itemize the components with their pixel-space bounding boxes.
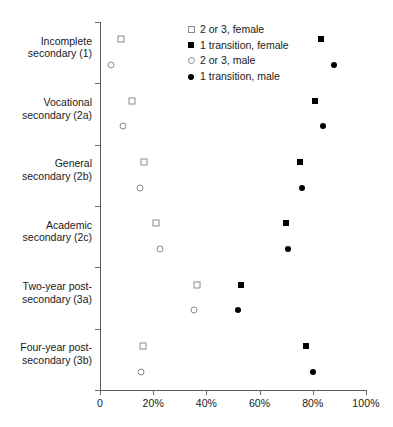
square-open-icon [188,26,195,33]
legend-marker-icon [186,57,196,64]
legend-item: 2 or 3, male [186,53,289,69]
legend-item: 1 transition, male [186,69,289,85]
y-axis-tick [95,83,100,84]
data-point [283,220,289,226]
x-axis-tick-label: 0 [97,397,103,409]
x-axis-tick [153,390,154,395]
legend-item-label: 2 or 3, male [200,53,255,69]
data-point [285,246,291,252]
y-axis-category-label: Academic secondary (2c) [0,218,92,243]
data-point [297,159,303,165]
x-axis-tick-label: 100% [352,397,379,409]
y-axis-category-label: Vocational secondary (2a) [0,96,92,121]
square-filled-icon [188,42,194,48]
data-point [310,369,316,375]
y-axis-tick [95,329,100,330]
data-point [312,98,318,104]
y-axis-tick [95,206,100,207]
data-point [318,36,324,42]
x-axis-tick-label: 20% [143,397,164,409]
data-point [156,245,163,252]
legend-marker-icon [186,42,196,48]
x-axis-tick-label: 40% [196,397,217,409]
legend-marker-icon [186,26,196,33]
legend-item-label: 2 or 3, female [200,22,264,38]
x-axis-tick-label: 80% [302,397,323,409]
data-point [299,185,305,191]
y-axis-tick [95,145,100,146]
y-axis-category-label: Incomplete secondary (1) [0,34,92,59]
y-axis-category-label: Two-year post- secondary (3a) [0,280,92,305]
data-point [107,61,114,68]
legend-item: 2 or 3, female [186,22,289,38]
x-axis-line [100,390,366,391]
y-axis-tick [95,267,100,268]
data-point [139,342,146,349]
data-point [152,220,159,227]
data-point [235,307,241,313]
x-axis-tick-label: 60% [249,397,270,409]
legend-item: 1 transition, female [186,38,289,54]
data-point [118,36,125,43]
data-point [140,158,147,165]
data-point [194,281,201,288]
data-point [331,62,337,68]
data-point [138,368,145,375]
data-point [238,282,244,288]
y-axis-tick [95,22,100,23]
x-axis-tick [100,390,101,395]
data-point [191,307,198,314]
x-axis-tick [313,390,314,395]
data-point [303,343,309,349]
y-axis-line [100,22,101,390]
x-axis-tick [260,390,261,395]
chart-legend: 2 or 3, female1 transition, female2 or 3… [186,22,289,84]
data-point [320,123,326,129]
data-point [119,123,126,130]
x-axis-tick [206,390,207,395]
circle-open-icon [188,57,195,64]
legend-item-label: 1 transition, male [200,69,280,85]
y-axis-category-label: General secondary (2b) [0,157,92,182]
circle-filled-icon [188,74,194,80]
legend-item-label: 1 transition, female [200,38,289,54]
legend-marker-icon [186,74,196,80]
data-point [128,97,135,104]
data-point [136,184,143,191]
x-axis-tick [366,390,367,395]
y-axis-category-label: Four-year post- secondary (3b) [0,341,92,366]
chart-root: Incomplete secondary (1)Vocational secon… [0,0,393,427]
